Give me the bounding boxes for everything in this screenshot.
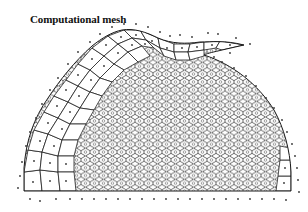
- mesh-cells: [0, 0, 308, 212]
- mesh-diagram: [0, 0, 308, 212]
